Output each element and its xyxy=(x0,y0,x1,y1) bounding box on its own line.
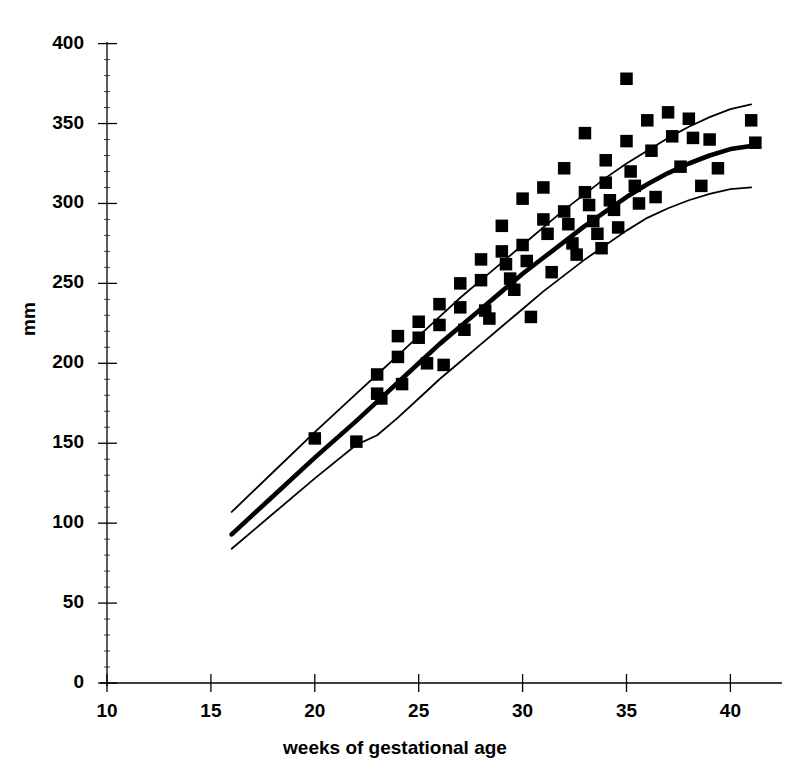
data-point-marker xyxy=(687,132,700,145)
data-point-marker xyxy=(396,378,409,391)
data-point-marker xyxy=(583,199,596,212)
data-point-marker xyxy=(591,228,604,241)
data-point-marker xyxy=(703,133,716,146)
data-point-marker xyxy=(633,197,646,210)
x-tick-label: 20 xyxy=(285,700,345,722)
data-point-marker xyxy=(454,277,467,290)
x-tick-label: 35 xyxy=(597,700,657,722)
x-tick-label: 15 xyxy=(181,700,241,722)
y-axis-title: mm xyxy=(18,302,40,336)
data-point-marker xyxy=(649,191,662,204)
data-point-marker xyxy=(537,181,550,194)
data-point-marker xyxy=(537,213,550,226)
data-point-marker xyxy=(521,255,534,268)
data-point-marker xyxy=(674,160,687,173)
data-point-marker xyxy=(620,73,633,86)
reference-curves xyxy=(232,104,752,548)
data-point-marker xyxy=(392,351,405,364)
data-point-marker xyxy=(496,245,509,258)
data-point-marker xyxy=(483,312,496,325)
data-point-marker xyxy=(683,112,696,125)
data-point-marker xyxy=(558,162,571,175)
data-point-marker xyxy=(500,258,512,271)
data-point-marker xyxy=(662,106,675,119)
scatter-plot-canvas xyxy=(0,0,790,783)
y-tick-label: 50 xyxy=(28,591,84,613)
data-point-marker xyxy=(599,154,612,167)
data-point-marker xyxy=(624,165,637,178)
curve-lower-percentile xyxy=(232,187,752,548)
x-tick-label: 30 xyxy=(493,700,553,722)
data-point-marker xyxy=(579,186,592,199)
data-point-marker xyxy=(516,192,529,205)
y-tick-label: 0 xyxy=(28,671,84,693)
data-point-marker xyxy=(433,298,446,311)
data-point-marker xyxy=(695,180,708,193)
data-point-marker xyxy=(545,266,558,279)
data-point-marker xyxy=(496,220,509,233)
data-point-marker xyxy=(712,162,725,175)
data-point-marker xyxy=(516,239,529,252)
data-point-marker xyxy=(629,180,642,193)
data-point-marker xyxy=(599,176,612,189)
data-point-marker xyxy=(595,242,608,255)
data-point-marker xyxy=(641,114,654,127)
data-point-marker xyxy=(437,359,450,372)
data-point-marker xyxy=(608,204,621,217)
data-point-marker xyxy=(475,274,488,287)
data-point-marker xyxy=(666,130,679,143)
data-point-marker xyxy=(587,215,600,228)
y-tick-label: 300 xyxy=(28,191,84,213)
data-point-marker xyxy=(558,205,571,218)
data-point-marker xyxy=(375,392,388,405)
x-tick-label: 25 xyxy=(389,700,449,722)
data-point-marker xyxy=(475,253,488,266)
data-point-marker xyxy=(371,368,384,381)
y-tick-label: 350 xyxy=(28,112,84,134)
data-point-marker xyxy=(421,357,434,370)
data-point-marker xyxy=(566,237,579,250)
data-point-marker xyxy=(645,144,658,157)
data-point-marker xyxy=(570,248,583,261)
x-tick-label: 10 xyxy=(77,700,137,722)
data-point-marker xyxy=(433,319,446,332)
data-point-marker xyxy=(309,432,322,445)
y-tick-label: 100 xyxy=(28,511,84,533)
curve-mean-line xyxy=(232,146,752,534)
data-point-marker xyxy=(579,127,592,139)
data-point-marker xyxy=(392,330,405,343)
y-tick-label: 250 xyxy=(28,271,84,293)
x-tick-label: 40 xyxy=(700,700,760,722)
data-point-marker xyxy=(508,284,521,297)
data-point-marker xyxy=(525,311,538,324)
data-point-marker xyxy=(504,272,517,285)
x-axis-title: weeks of gestational age xyxy=(0,737,790,759)
data-point-marker xyxy=(412,315,425,328)
y-tick-label: 150 xyxy=(28,431,84,453)
data-point-marker xyxy=(620,135,633,148)
y-tick-label: 200 xyxy=(28,351,84,373)
data-point-marker xyxy=(612,221,625,234)
data-point-marker xyxy=(350,435,363,448)
data-point-markers xyxy=(309,73,762,448)
data-point-marker xyxy=(745,114,758,127)
data-point-marker xyxy=(454,301,467,314)
y-tick-label: 400 xyxy=(28,32,84,54)
data-point-marker xyxy=(412,331,425,344)
data-point-marker xyxy=(458,323,471,336)
data-point-marker xyxy=(749,136,762,149)
data-point-marker xyxy=(541,228,554,241)
chart-container: mm weeks of gestational age 050100150200… xyxy=(0,0,790,783)
data-point-marker xyxy=(562,218,575,231)
